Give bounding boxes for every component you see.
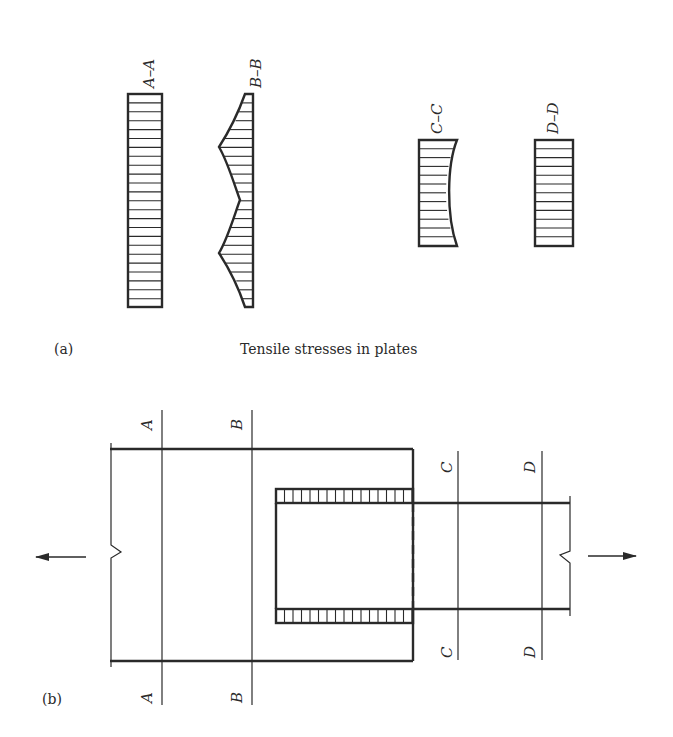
section-b-b-label: B–B xyxy=(247,58,265,89)
mark-b-bottom: B xyxy=(228,692,246,704)
mark-d-top: D xyxy=(521,461,539,474)
part-a-label: (a) xyxy=(54,341,73,357)
part-a-caption: Tensile stresses in plates xyxy=(240,341,417,357)
inner-plate xyxy=(276,489,570,623)
mark-a-top: A xyxy=(138,419,156,432)
figure-canvas: A–A B–B C–C D–D (a) Tensile stresses in … xyxy=(0,0,673,737)
mark-c-top: C xyxy=(438,461,456,473)
mark-a-bottom: A xyxy=(138,692,156,705)
outer-plate xyxy=(110,443,413,667)
section-d-d-label: D–D xyxy=(544,102,562,135)
section-d-d-diagram: D–D xyxy=(535,102,573,246)
section-a-a-diagram: A–A xyxy=(128,59,162,307)
part-b-label: (b) xyxy=(42,691,62,707)
section-b-b-diagram: B–B xyxy=(219,58,265,307)
mark-d-bottom: D xyxy=(521,646,539,659)
section-c-c-label: C–C xyxy=(428,103,446,134)
mark-b-top: B xyxy=(228,419,246,431)
mark-c-bottom: C xyxy=(438,646,456,658)
section-a-a-label: A–A xyxy=(140,59,158,90)
section-c-c-diagram: C–C xyxy=(419,103,457,246)
